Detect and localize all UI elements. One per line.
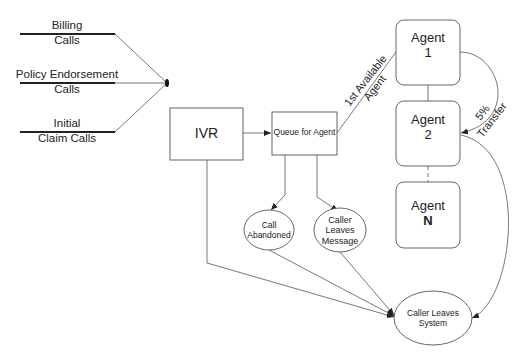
queue-to-abandoned-arrow [271, 155, 285, 210]
queue-label: Queue for Agent [272, 128, 337, 138]
ivr-label: IVR [170, 125, 243, 141]
junction-dot [165, 79, 169, 87]
source-policy-label: Policy Endorsement Calls [0, 68, 147, 96]
source-billing-label: Billing Calls [0, 19, 147, 47]
agent-1-label: Agent 1 [396, 31, 460, 61]
agent-n-label: Agent N [396, 199, 460, 229]
caller-leaves-system-label: Caller Leaves System [394, 309, 472, 329]
call-abandoned-label: Call Abandoned [244, 221, 294, 241]
caller-leaves-message-label: Caller Leaves Message [313, 215, 367, 246]
agent-to-leave-curve [461, 135, 509, 318]
queue-to-message-arrow [317, 155, 338, 211]
source-claim-label: Initial Claim Calls [0, 117, 147, 145]
agent-2-label: Agent 2 [396, 113, 460, 143]
